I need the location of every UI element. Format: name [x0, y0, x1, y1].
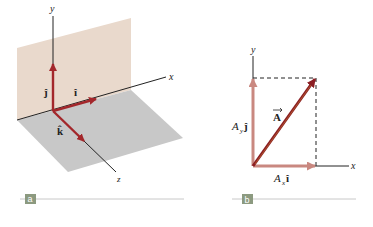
x-axis-b-label: x	[350, 160, 356, 171]
y-axis-b-label: y	[250, 44, 256, 55]
panel-b: y x A A y ĵ A x î b	[231, 44, 356, 205]
y-axis-label: y	[49, 3, 55, 14]
badge-b-label: b	[245, 195, 250, 205]
k-label: k̂	[57, 125, 64, 137]
svg-text:A: A	[273, 111, 281, 123]
svg-text:A: A	[231, 120, 239, 132]
resultant-highlight	[255, 85, 311, 164]
panel-a: y x z ĵ î k̂ a	[17, 3, 184, 204]
y-component-label: A y ĵ	[231, 120, 248, 135]
x-component-label: A x î	[273, 172, 290, 187]
z-axis-label: z	[116, 174, 121, 184]
unit-vector-diagram: y x z ĵ î k̂ a y x A A y ĵ A x	[0, 0, 373, 227]
svg-text:A: A	[273, 172, 281, 184]
x-axis-label: x	[168, 71, 174, 82]
svg-text:ĵ: ĵ	[243, 120, 248, 132]
svg-text:î: î	[285, 172, 290, 184]
vector-A-label: A	[273, 108, 282, 123]
badge-a-label: a	[28, 194, 33, 204]
j-label: ĵ	[43, 86, 48, 98]
